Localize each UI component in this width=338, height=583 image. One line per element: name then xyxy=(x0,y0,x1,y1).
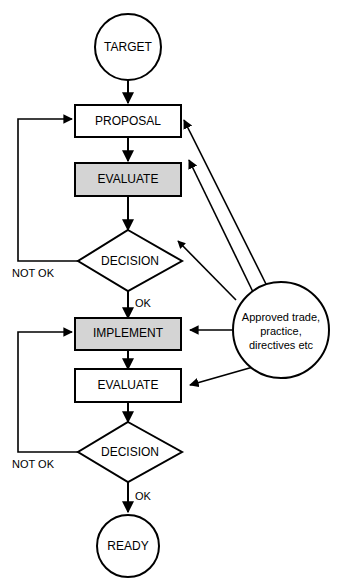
node-decision-upper-label: DECISION xyxy=(101,254,159,268)
node-approved-line3: directives etc xyxy=(249,339,314,351)
edge-label-ok-upper: OK xyxy=(135,297,152,309)
edge-not-ok-lower-loop xyxy=(18,332,78,452)
node-implement-label: IMPLEMENT xyxy=(93,326,164,340)
node-decision-lower-label: DECISION xyxy=(101,445,159,459)
edge-approved-to-proposal xyxy=(184,120,268,288)
node-evaluate-upper-label: EVALUATE xyxy=(98,172,159,186)
node-approved-line2: practice, xyxy=(260,325,302,337)
node-proposal-label: PROPOSAL xyxy=(95,114,161,128)
edge-label-ok-lower: OK xyxy=(135,490,152,502)
edge-not-ok-upper-loop xyxy=(18,119,78,261)
node-target-label: TARGET xyxy=(104,40,152,54)
node-approved-line1: Approved trade, xyxy=(242,311,320,323)
edge-label-not-ok-upper: NOT OK xyxy=(12,267,55,279)
edge-approved-to-decision-upper xyxy=(178,241,236,300)
node-ready-label: READY xyxy=(107,539,148,553)
flowchart-diagram: TARGET PROPOSAL EVALUATE DECISION NOT OK… xyxy=(0,0,338,583)
flowchart-canvas: TARGET PROPOSAL EVALUATE DECISION NOT OK… xyxy=(0,0,338,583)
edge-label-not-ok-lower: NOT OK xyxy=(12,458,55,470)
edge-approved-to-evaluate-lower xyxy=(190,367,253,385)
edge-approved-to-evaluate-upper xyxy=(189,160,253,292)
node-evaluate-lower-label: EVALUATE xyxy=(98,378,159,392)
